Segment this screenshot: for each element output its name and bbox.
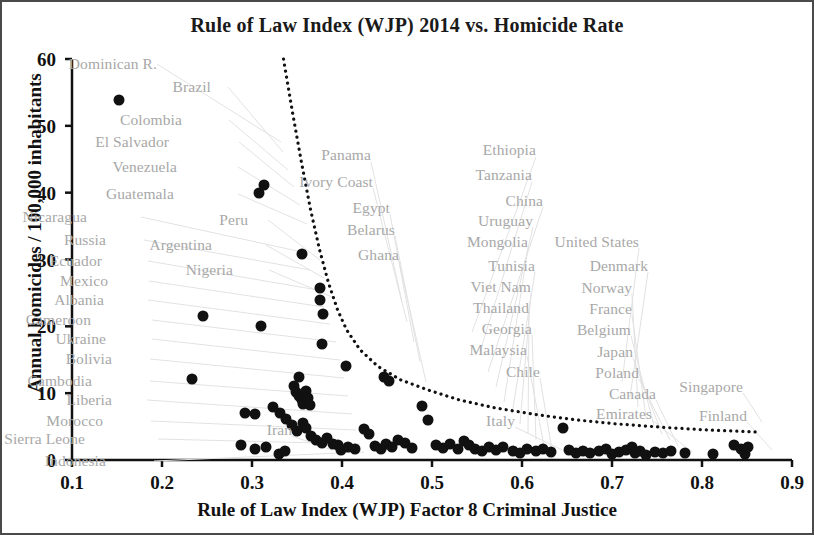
country-label: Emirates [596,405,652,423]
country-label: Guatemala [106,185,174,203]
scatter-point [197,311,208,322]
country-label: Tanzania [475,166,532,184]
scatter-point [340,361,351,372]
country-label: Tunisia [488,257,535,275]
scatter-point [261,442,272,453]
scatter-point [742,442,753,453]
country-label: Singapore [679,378,743,396]
country-label: Indonesia [45,452,106,470]
scatter-point [254,188,265,199]
scatter-point [280,445,291,456]
scatter-point [545,446,556,457]
country-label: Cameroon [26,311,91,329]
country-label: Norway [581,279,632,297]
scatter-point [666,446,677,457]
country-label: Mexico [60,272,108,290]
scatter-point [315,295,326,306]
scatter-point [304,400,315,411]
scatter-point [407,442,418,453]
country-label: El Salvador [95,133,169,151]
country-label: France [589,300,632,318]
leader-lines [2,2,814,535]
country-label: Ecuador [50,252,102,270]
scatter-point [236,439,247,450]
scatter-point [707,448,718,459]
scatter-point [679,447,690,458]
plot-area [2,2,814,535]
country-label: Bolivia [66,350,112,368]
country-label: Liberia [67,391,112,409]
country-label: Ivory Coast [299,173,373,191]
country-label: Venezuela [112,158,177,176]
country-label: Thailand [473,299,529,317]
country-label: Belgium [577,321,631,339]
country-label: Finland [699,407,747,425]
country-label: Cambodia [27,372,92,390]
scatter-point [315,282,326,293]
country-label: Chile [506,363,540,381]
country-label: Egypt [352,199,390,217]
scatter-point [186,374,197,385]
country-label: Colombia [120,111,182,129]
country-label: Argentina [149,236,212,254]
country-label: Mongolia [467,233,528,251]
country-label: Italy [486,412,515,430]
country-label: Georgia [482,320,532,338]
country-label: Iran [267,421,292,439]
scatter-point [256,320,267,331]
country-label: Japan [597,343,633,361]
country-label: Viet Nam [470,278,531,296]
axes-lines [2,2,814,535]
country-label: Morocco [46,412,103,430]
scatter-point [349,444,360,455]
chart-frame: Rule of Law Index (WJP) 2014 vs. Homicid… [0,0,814,535]
country-label: Denmark [590,257,648,275]
country-label: Malaysia [469,341,527,359]
country-label: Russia [64,231,106,249]
country-label: Peru [219,211,248,229]
country-label: Ukraine [55,330,106,348]
country-label: China [505,192,543,210]
country-label: United States [555,233,639,251]
scatter-point [383,376,394,387]
scatter-point [297,249,308,260]
country-label: Dominican R. [69,55,157,73]
country-label: Sierra Leone [4,430,85,448]
country-label: Albania [54,291,104,309]
chart-inner: Rule of Law Index (WJP) 2014 vs. Homicid… [2,2,812,533]
country-label: Nicaragua [22,208,87,226]
scatter-point [113,94,124,105]
country-label: Canada [609,385,656,403]
scatter-point [423,414,434,425]
scatter-point [249,408,260,419]
scatter-point [317,339,328,350]
country-label: Belarus [347,221,395,239]
country-label: Ethiopia [483,141,536,159]
country-label: Brazil [173,78,211,96]
scatter-point [364,428,375,439]
scatter-point [249,444,260,455]
trend-curve [2,2,814,535]
country-label: Poland [595,364,639,382]
scatter-point [557,422,568,433]
scatter-point [318,308,329,319]
country-label: Nigeria [186,261,233,279]
country-label: Ghana [358,246,399,264]
country-label: Panama [321,146,371,164]
country-label: Uruguay [478,212,533,230]
scatter-point [417,400,428,411]
